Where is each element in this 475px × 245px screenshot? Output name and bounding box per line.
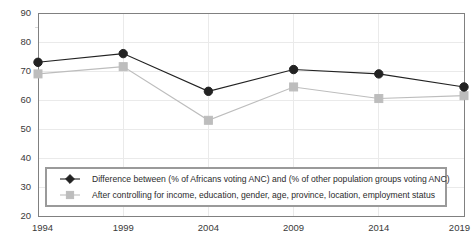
series-marker [375,95,383,103]
series-marker [119,49,127,57]
series-marker [204,87,212,95]
series-line [38,54,464,92]
y-axis-tick-labels: 2030405060708090 [20,7,31,221]
x-axis-tick-label: 2019 [449,222,470,233]
chart-container: 2030405060708090199419992004200920142019… [0,0,475,245]
legend-label: Difference between (% of Africans voting… [92,174,450,184]
series-marker [460,92,468,100]
series-marker [290,83,298,91]
series-line [38,67,464,121]
series-marker [119,63,127,71]
legend-item[interactable]: After controlling for income, education,… [60,190,435,200]
data-series [34,49,468,95]
data-series [34,63,468,125]
line-chart: 2030405060708090199419992004200920142019… [0,0,475,245]
y-axis-tick-label: 20 [20,210,31,221]
y-axis-tick-label: 90 [20,7,31,18]
legend-item[interactable]: Difference between (% of Africans voting… [60,174,450,184]
x-axis-tick-label: 2014 [368,222,389,233]
y-axis-tick-label: 60 [20,94,31,105]
x-axis-tick-label: 2009 [283,222,304,233]
legend: Difference between (% of Africans voting… [46,168,450,206]
legend-label: After controlling for income, education,… [92,190,435,200]
series-marker [375,70,383,78]
x-axis-tick-label: 1999 [113,222,134,233]
x-axis-tick-label: 2004 [198,222,219,233]
y-axis-tick-label: 80 [20,36,31,47]
series-marker [34,70,42,78]
y-axis-tick-label: 50 [20,123,31,134]
y-axis-tick-label: 40 [20,152,31,163]
x-axis-tick-labels: 199419992004200920142019 [32,222,470,233]
series-marker [204,116,212,124]
square-icon [66,191,73,198]
y-axis-tick-label: 70 [20,65,31,76]
y-axis-tick-label: 30 [20,181,31,192]
series-marker [34,58,42,66]
series-marker [460,83,468,91]
series-marker [289,65,297,73]
x-axis-tick-label: 1994 [32,222,53,233]
